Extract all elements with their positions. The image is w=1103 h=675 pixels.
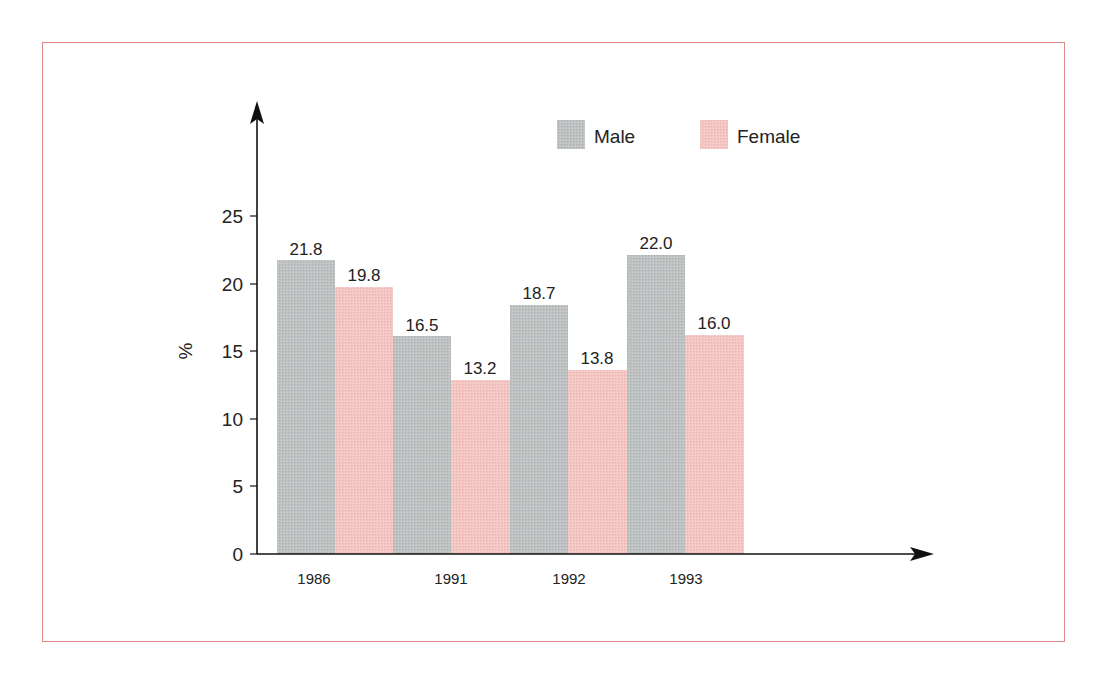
value-label-female-1986: 19.8	[347, 266, 380, 285]
value-label-male-1986: 21.8	[289, 240, 322, 259]
x-tick-1993: 1993	[669, 570, 702, 587]
bar-male-1986	[277, 260, 335, 554]
bar-female-1992	[568, 370, 627, 554]
x-tick-1992: 1992	[552, 570, 585, 587]
value-label-female-1993: 16.0	[697, 314, 730, 333]
legend-label-female: Female	[737, 126, 800, 147]
bar-chart: Male Female 21.8 19.8 16.5 13.2 18.7 13.…	[0, 0, 1103, 675]
x-tick-1986: 1986	[297, 570, 330, 587]
legend-label-male: Male	[594, 126, 635, 147]
bar-female-1993	[685, 335, 744, 554]
y-tick-20: 20	[222, 274, 243, 295]
y-axis-label: %	[175, 342, 196, 359]
y-tick-5: 5	[232, 476, 243, 497]
bar-male-1991	[393, 336, 451, 554]
bar-female-1986	[335, 287, 393, 554]
y-axis: 0 5 10 15 20 25 %	[175, 101, 264, 565]
y-tick-10: 10	[222, 409, 243, 430]
value-label-male-1992: 18.7	[522, 284, 555, 303]
y-tick-25: 25	[222, 206, 243, 227]
y-tick-15: 15	[222, 341, 243, 362]
bar-female-1991	[451, 380, 510, 554]
legend-swatch-female	[700, 120, 728, 149]
value-label-female-1992: 13.8	[580, 349, 613, 368]
bar-male-1992	[510, 305, 568, 554]
y-tick-0: 0	[232, 544, 243, 565]
bars	[277, 255, 744, 554]
bar-male-1993	[627, 255, 685, 554]
legend-swatch-male	[557, 120, 585, 149]
x-tick-1991: 1991	[434, 570, 467, 587]
value-label-female-1991: 13.2	[463, 359, 496, 378]
value-label-male-1993: 22.0	[639, 234, 672, 253]
legend: Male Female	[557, 120, 800, 149]
value-label-male-1991: 16.5	[405, 316, 438, 335]
